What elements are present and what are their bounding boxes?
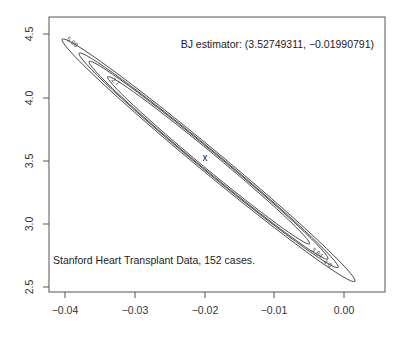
contour-label-4.6: 4.6 — [322, 258, 334, 269]
contour-label-2.7: 2.7 — [110, 76, 122, 87]
x-tick-label: −0.02 — [192, 304, 219, 316]
y-tick-label: 4.5 — [23, 27, 35, 42]
contour-labels: 5.99 2.7 3.84 4.6 — [65, 35, 334, 269]
dataset-annotation: Stanford Heart Transplant Data, 152 case… — [53, 254, 255, 266]
x-tick-label: −0.04 — [52, 304, 79, 316]
y-tick-label: 4.0 — [23, 91, 35, 106]
x-tick-label: −0.03 — [122, 304, 149, 316]
y-axis — [43, 34, 49, 287]
contour-2.7 — [103, 71, 315, 250]
contour-chart: −0.04 −0.03 −0.02 −0.01 0.00 4.5 4.0 3.5… — [0, 0, 406, 338]
y-tick-labels: 4.5 4.0 3.5 3.0 2.5 — [23, 27, 35, 295]
estimator-marker: x — [203, 152, 208, 163]
contour-3.84 — [83, 54, 334, 266]
x-tick-label: −0.01 — [261, 304, 288, 316]
x-tick-label: 0.00 — [334, 304, 355, 316]
contour-label-5.99: 5.99 — [65, 35, 80, 49]
estimator-annotation: BJ estimator: (3.52749311, −0.01990791) — [181, 38, 374, 50]
y-tick-label: 3.0 — [23, 217, 35, 232]
x-axis — [65, 292, 344, 298]
y-tick-label: 2.5 — [23, 280, 35, 295]
y-tick-label: 3.5 — [23, 154, 35, 169]
x-tick-labels: −0.04 −0.03 −0.02 −0.01 0.00 — [52, 304, 355, 316]
